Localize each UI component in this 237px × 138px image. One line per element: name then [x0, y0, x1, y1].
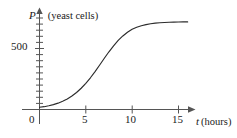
- x-tick-label-10: 10: [125, 114, 136, 125]
- x-tick-label-5: 5: [82, 114, 88, 125]
- x-tick-label-0: 0: [29, 114, 35, 125]
- y-axis-title: P(yeast cells): [29, 10, 98, 22]
- x-axis: [22, 106, 196, 112]
- x-axis-arrowhead: [188, 106, 196, 112]
- x-axis-title: t(hours): [196, 116, 231, 128]
- y-tick-label-500: 500: [11, 41, 28, 52]
- yeast-growth-figure: P(yeast cells) t(hours) 500 0 5 10 15: [0, 0, 237, 138]
- y-axis-unit: (yeast cells): [48, 10, 98, 21]
- logistic-growth-curve: [40, 22, 188, 107]
- x-axis-variable: t: [196, 115, 199, 127]
- y-axis-variable: P: [29, 9, 36, 21]
- x-tick-label-15: 15: [172, 114, 183, 125]
- x-axis-unit: (hours): [201, 116, 231, 127]
